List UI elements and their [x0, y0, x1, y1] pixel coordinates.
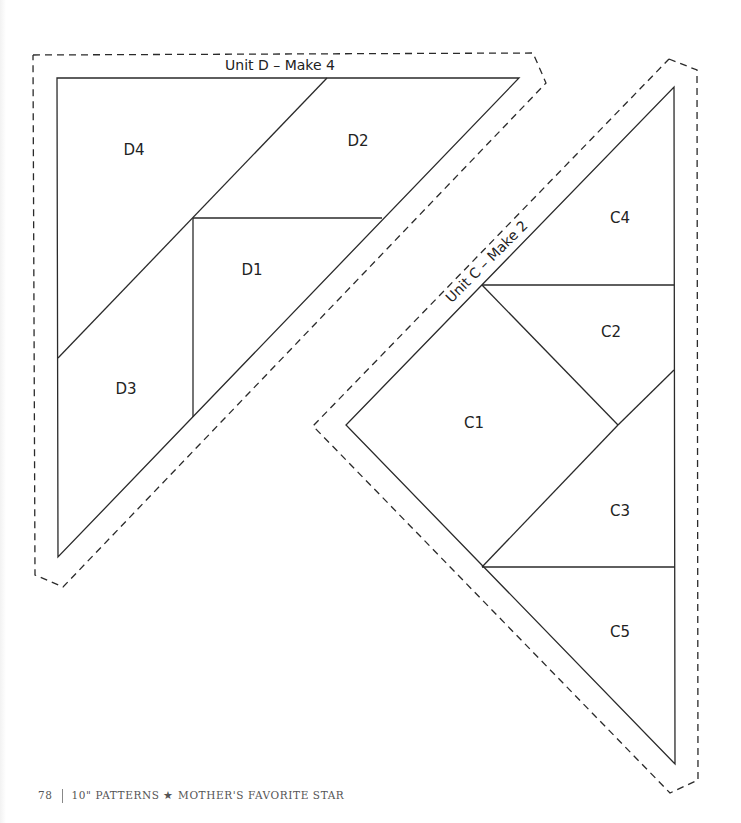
foundation-piecing-diagram: Unit D – Make 4 D4 D2 D1 D3 Unit C – Mak… [0, 0, 741, 823]
page-footer: 7810" PATTERNS ★ MOTHER'S FAVORITE STAR [38, 789, 344, 803]
piece-label-c2: C2 [601, 323, 621, 341]
footer-divider [62, 789, 63, 803]
piece-label-c1: C1 [464, 414, 484, 432]
unit-c: Unit C – Make 2 C4 C2 C1 C3 C5 [313, 59, 698, 793]
page-number: 78 [38, 789, 53, 801]
piece-label-d1: D1 [241, 261, 262, 279]
unit-c-outline [346, 87, 675, 764]
piece-label-c5: C5 [610, 623, 630, 641]
unit-d-title: Unit D – Make 4 [225, 57, 335, 73]
unit-d: Unit D – Make 4 D4 D2 D1 D3 [33, 53, 546, 587]
piece-label-d4: D4 [123, 141, 144, 159]
piece-label-c4: C4 [610, 209, 630, 227]
piece-label-d3: D3 [115, 380, 136, 398]
unit-c-seam-c1-c3 [482, 425, 618, 567]
unit-c-seam-c1-c2 [482, 285, 618, 425]
unit-c-seam-c2-c3 [618, 370, 674, 425]
piece-label-d2: D2 [347, 132, 368, 150]
unit-d-seam-allowance [33, 53, 546, 587]
piece-label-c3: C3 [610, 502, 630, 520]
unit-c-title: Unit C – Make 2 [442, 217, 530, 305]
unit-c-seam-allowance [313, 59, 698, 793]
footer-title: 10" PATTERNS ★ MOTHER'S FAVORITE STAR [72, 789, 345, 801]
